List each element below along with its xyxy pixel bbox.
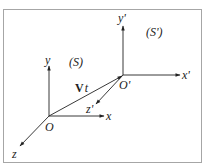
z-axis-label: z xyxy=(11,147,17,161)
origin-prime-label: O' xyxy=(119,78,131,92)
vector-symbol: V xyxy=(75,81,84,95)
z-prime-axis-label: z' xyxy=(85,102,94,116)
figure-border xyxy=(4,10,202,163)
frame-s-prime-axes xyxy=(96,26,180,104)
x-prime-axis-label: x' xyxy=(181,68,190,82)
reference-frames-diagram: y x z O (S) y' x' z' O' (S') Vt xyxy=(0,0,204,167)
y-prime-axis-label: y' xyxy=(117,11,126,25)
vector-label: Vt xyxy=(75,81,89,95)
frame-s-label: (S) xyxy=(69,55,83,69)
x-axis-label: x xyxy=(105,109,112,123)
time-symbol: t xyxy=(85,81,89,95)
origin-label: O xyxy=(45,120,54,134)
frame-s-prime-label: (S') xyxy=(146,25,163,39)
y-axis-label: y xyxy=(44,53,51,67)
